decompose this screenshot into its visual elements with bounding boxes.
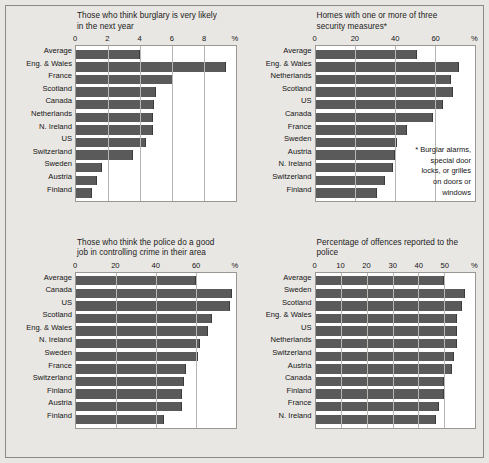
bar <box>316 276 445 285</box>
x-tick-label: 20 <box>111 260 119 271</box>
title-line-1: Those who think burglary is very likely <box>77 11 237 22</box>
category-axis: AverageEng. & WalesFranceScotlandCanadaN… <box>13 33 75 202</box>
panel-title: Homes with one or more of three security… <box>317 11 477 32</box>
gridline <box>355 46 356 201</box>
category-label: N. Ireland <box>253 158 315 171</box>
title-line-1: Homes with one or more of three <box>317 11 477 22</box>
x-tick-label: 2 <box>105 33 109 44</box>
bar <box>316 352 455 361</box>
category-label: Scotland <box>13 309 75 322</box>
bar <box>76 188 92 197</box>
plot-wrapper: AverageEng. & WalesNetherlandsScotlandUS… <box>253 33 477 202</box>
category-label: France <box>13 70 75 83</box>
category-label: N. Ireland <box>13 121 75 134</box>
x-tick-label: 60 <box>431 33 439 44</box>
gridline <box>367 273 368 428</box>
category-label: Sweden <box>13 347 75 360</box>
title-line-2: police <box>317 248 477 259</box>
bar <box>316 75 452 84</box>
bar <box>76 138 146 147</box>
bar <box>316 87 454 96</box>
category-label: Netherlands <box>253 70 315 83</box>
panel-title: Percentage of offences reported to the p… <box>317 238 477 259</box>
category-label: France <box>253 121 315 134</box>
category-label: Finland <box>253 385 315 398</box>
title-line-1: Percentage of offences reported to the <box>317 238 477 249</box>
footnote-line: special door <box>387 156 471 167</box>
gridline <box>172 46 173 201</box>
gridline <box>196 273 197 428</box>
bar <box>76 289 232 298</box>
gridline <box>393 273 394 428</box>
category-label: Average <box>13 45 75 58</box>
bar-row <box>76 61 236 74</box>
bar <box>316 389 445 398</box>
bar <box>76 163 102 172</box>
bar <box>76 150 133 159</box>
category-label: Sweden <box>13 158 75 171</box>
bar <box>76 339 200 348</box>
bar <box>316 113 434 122</box>
bar <box>76 301 230 310</box>
bar-row <box>76 174 236 187</box>
category-label: Finland <box>13 385 75 398</box>
footnote-line: * Burglar alarms, <box>387 145 471 156</box>
bar-row <box>76 73 236 86</box>
plot-column: 0204060% <box>75 260 237 429</box>
category-label: Scotland <box>253 83 315 96</box>
x-tick-label: 0 <box>73 260 77 271</box>
category-label: Scotland <box>13 83 75 96</box>
panel-police-good-job: Those who think the police do a good job… <box>5 232 245 459</box>
category-label: Switzerland <box>253 171 315 184</box>
category-label: Austria <box>13 397 75 410</box>
footnote-line: locks, or grilles <box>387 166 471 177</box>
x-tick-label: 40 <box>152 260 160 271</box>
x-tick-label: 0 <box>73 33 77 44</box>
bar-row <box>316 388 476 401</box>
bar <box>316 289 465 298</box>
category-label: Average <box>13 272 75 285</box>
category-label: US <box>253 322 315 335</box>
bar <box>76 276 196 285</box>
bar <box>316 62 460 71</box>
category-label: N. Ireland <box>13 334 75 347</box>
gridline <box>204 46 205 201</box>
gridline <box>108 46 109 201</box>
bar <box>76 326 208 335</box>
plot-column: 02468% <box>75 33 237 202</box>
bar-row <box>76 161 236 174</box>
x-tick-label: 4 <box>137 33 141 44</box>
bar <box>76 415 164 424</box>
bar-row <box>76 111 236 124</box>
bar <box>316 188 378 197</box>
bar-row <box>76 136 236 149</box>
x-tick-label: 8 <box>202 33 206 44</box>
bar-row <box>316 275 476 288</box>
x-axis-ticks: 02468% <box>75 33 237 45</box>
bar-row <box>316 350 476 363</box>
bar <box>76 389 182 398</box>
x-axis-unit-label: % <box>231 260 238 271</box>
category-label: Eng. & Wales <box>13 58 75 71</box>
bar-row <box>316 312 476 325</box>
bar-row <box>76 124 236 137</box>
category-label: Switzerland <box>253 347 315 360</box>
bar <box>76 75 173 84</box>
bar-row <box>316 400 476 413</box>
x-tick-label: 40 <box>414 260 422 271</box>
bar <box>76 176 97 185</box>
bar-series <box>316 273 476 428</box>
bar <box>76 87 156 96</box>
category-label: Eng. & Wales <box>13 322 75 335</box>
category-label: Canada <box>13 284 75 297</box>
x-tick-label: 40 <box>391 33 399 44</box>
bar <box>316 326 457 335</box>
category-label: Austria <box>13 171 75 184</box>
x-axis-unit-label: % <box>471 260 478 271</box>
category-label: Average <box>253 272 315 285</box>
category-label: Netherlands <box>253 334 315 347</box>
category-label: US <box>13 133 75 146</box>
bar <box>76 402 182 411</box>
bar <box>76 364 186 373</box>
panel-home-security: Homes with one or more of three security… <box>245 5 485 232</box>
